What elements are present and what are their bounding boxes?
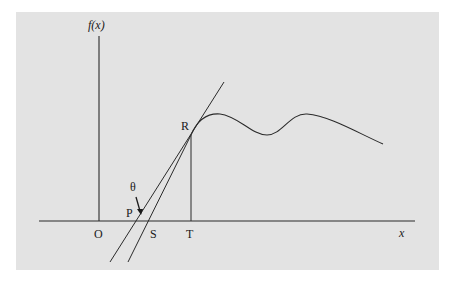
point-t-label: T bbox=[186, 228, 193, 240]
angle-arrow bbox=[136, 197, 140, 211]
x-axis-label: x bbox=[399, 227, 404, 239]
function-curve bbox=[191, 114, 383, 144]
point-r-label: R bbox=[181, 120, 189, 132]
line-rs bbox=[128, 135, 191, 262]
point-p-label: P bbox=[126, 207, 133, 219]
diagram-canvas bbox=[0, 0, 454, 282]
angle-theta-label: θ bbox=[130, 181, 136, 193]
origin-label: O bbox=[94, 228, 103, 240]
point-s-label: S bbox=[150, 228, 157, 240]
y-axis-label: f(x) bbox=[88, 19, 105, 31]
tangent-line bbox=[110, 82, 224, 262]
